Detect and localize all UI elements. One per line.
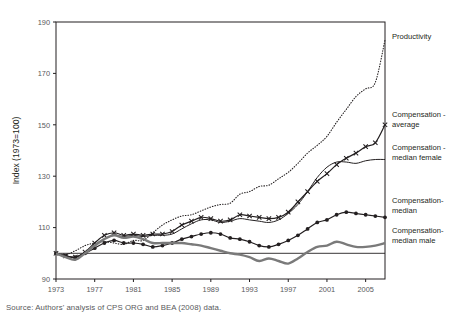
x-tick-1989: 1989 xyxy=(203,279,219,294)
data-point xyxy=(286,239,290,243)
svg-text:1985: 1985 xyxy=(164,285,180,294)
svg-text:190: 190 xyxy=(38,18,50,27)
data-point xyxy=(102,233,106,237)
series-label-compensation-median-female: Compensation -median female xyxy=(392,143,446,162)
data-point xyxy=(383,215,387,219)
x-tick-1985: 1985 xyxy=(164,279,180,294)
data-point xyxy=(267,245,271,249)
series-label-compensation-average: Compensation -average xyxy=(392,110,446,129)
y-tick-130: 130 xyxy=(38,172,56,181)
svg-text:Compensation-: Compensation- xyxy=(392,196,444,205)
data-point xyxy=(296,233,300,237)
data-point xyxy=(161,244,165,248)
svg-text:Compensation-: Compensation- xyxy=(392,226,444,235)
x-tick-2005: 2005 xyxy=(357,279,373,294)
svg-text:1977: 1977 xyxy=(86,285,102,294)
svg-text:1997: 1997 xyxy=(280,285,296,294)
productivity-compensation-chart: 9011013015017019019731977198119851989199… xyxy=(0,0,454,325)
data-point xyxy=(112,239,116,243)
series-compensation-median-male xyxy=(56,235,385,263)
x-tick-1981: 1981 xyxy=(125,279,141,294)
y-tick-150: 150 xyxy=(38,121,56,130)
svg-text:median male: median male xyxy=(392,236,435,245)
series-label-compensation-median: Compensation-median xyxy=(392,196,444,215)
svg-text:150: 150 xyxy=(38,121,50,130)
data-point xyxy=(344,156,348,160)
data-point xyxy=(180,223,184,227)
svg-text:1981: 1981 xyxy=(125,285,141,294)
data-point xyxy=(209,231,213,235)
data-point xyxy=(325,171,329,175)
svg-text:170: 170 xyxy=(38,69,50,78)
data-point xyxy=(335,213,339,217)
svg-text:Productivity: Productivity xyxy=(392,32,431,41)
svg-text:1989: 1989 xyxy=(203,285,219,294)
svg-text:1993: 1993 xyxy=(241,285,257,294)
x-tick-1977: 1977 xyxy=(86,279,102,294)
y-tick-90: 90 xyxy=(42,275,56,284)
svg-text:Compensation -: Compensation - xyxy=(392,143,446,152)
series-line xyxy=(56,235,385,263)
data-point xyxy=(354,212,358,216)
svg-text:median: median xyxy=(392,206,417,215)
y-tick-190: 190 xyxy=(38,18,56,27)
source-note: Source: Authors' analysis of CPS ORG and… xyxy=(6,303,221,312)
data-point xyxy=(354,151,358,155)
data-point xyxy=(306,227,310,231)
x-tick-2001: 2001 xyxy=(319,279,335,294)
data-point xyxy=(344,210,348,214)
svg-text:2005: 2005 xyxy=(357,285,373,294)
series-label-compensation-median-male: Compensation-median male xyxy=(392,226,444,245)
data-point xyxy=(248,240,252,244)
y-axis-title: Index (1973=100) xyxy=(11,117,21,185)
data-point xyxy=(277,242,281,246)
x-tick-1973: 1973 xyxy=(48,279,64,294)
data-point xyxy=(315,221,319,225)
data-point xyxy=(180,237,184,241)
data-point xyxy=(122,241,126,245)
data-point xyxy=(373,214,377,218)
series-label-productivity: Productivity xyxy=(392,32,431,41)
svg-text:Compensation -: Compensation - xyxy=(392,110,446,119)
data-point xyxy=(238,237,242,241)
data-point xyxy=(199,232,203,236)
x-tick-1997: 1997 xyxy=(280,279,296,294)
y-tick-110: 110 xyxy=(38,223,56,232)
svg-text:1973: 1973 xyxy=(48,285,64,294)
data-point xyxy=(102,241,106,245)
data-point xyxy=(219,232,223,236)
x-tick-1993: 1993 xyxy=(241,279,257,294)
data-point xyxy=(325,218,329,222)
svg-text:2001: 2001 xyxy=(319,285,335,294)
svg-text:130: 130 xyxy=(38,172,50,181)
data-point xyxy=(132,241,136,245)
svg-text:90: 90 xyxy=(42,275,50,284)
data-point xyxy=(228,236,232,240)
plot-area-border xyxy=(56,22,385,279)
data-point xyxy=(190,235,194,239)
data-point xyxy=(151,245,155,249)
data-point xyxy=(373,141,377,145)
data-point xyxy=(364,213,368,217)
svg-text:110: 110 xyxy=(38,223,50,232)
y-tick-170: 170 xyxy=(38,69,56,78)
svg-text:average: average xyxy=(392,120,419,129)
svg-text:median female: median female xyxy=(392,153,442,162)
data-point xyxy=(257,244,261,248)
data-point xyxy=(334,162,338,166)
data-point xyxy=(141,242,145,246)
